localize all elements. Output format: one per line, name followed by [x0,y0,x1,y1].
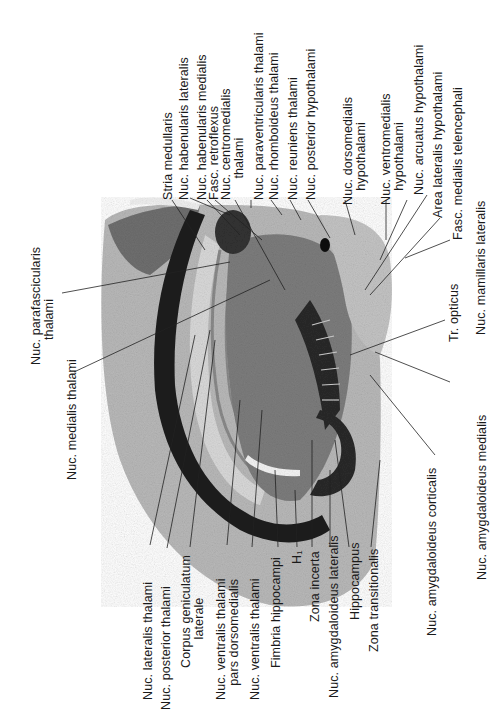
label-nuc-reuniens-thalami: Nuc. reuniens thalami [287,77,300,200]
brain-section-figure: Stria medullaris Nuc. habenularis latera… [0,0,493,726]
label-stria-medullaris: Stria medullaris [162,112,175,200]
label-h1: H₁ [291,551,304,564]
label-nuc-habenularis-lateralis: Nuc. habenularis lateralis [178,57,191,200]
label-nuc-ventralis-thalami-pars-dorsomedialis: Nuc. ventralis thalami pars dorsomediali… [215,578,241,700]
label-nuc-posterior-thalami: Nuc. posterior thalami [160,586,173,710]
label-nuc-parafascicularis-thalami: Nuc. parafascicularis thalami [30,247,56,365]
label-nuc-paraventricularis-thalami: Nuc. paraventricularis thalami [253,32,266,200]
label-zona-transitionalis: Zona transitionalis [368,549,381,652]
label-fimbria-hippocampi: Fimbria hippocampi [270,557,283,668]
label-nuc-ventromedialis-hypothalami: Nuc. ventromedialis hypothalami [380,93,406,205]
label-zona-incerta: Zona incerta [309,551,322,622]
label-nuc-amygdaloideus-lateralis: Nuc. amygdaloideus lateralis [328,535,341,698]
label-nuc-arcuatus-hypothalami: Nuc. arcuatus hypothalami [413,45,426,196]
label-nuc-mamillaris-lateralis: Nuc. mamillaris lateralis [475,201,488,335]
label-nuc-ventralis-thalami: Nuc. ventralis thalami [249,578,262,700]
label-nuc-rhomboideus-thalami: Nuc. rhomboideus thalami [268,52,281,200]
label-hippocampus: Hippocampus [349,542,362,620]
label-nuc-amygdaloideus-medialis: Nuc. amygdaloideus medialis [476,415,489,580]
label-corpus-geniculatum-laterale: Corpus geniculatum laterale [180,555,206,668]
label-nuc-lateralis-thalami: Nuc. lateralis thalami [142,582,155,700]
label-nuc-centromedialis-thalami: Nuc. centromedialis thalami [220,88,246,200]
label-nuc-dorsomedialis-hypothalami: Nuc. dorsomedialis hypothalami [342,97,368,205]
label-area-lateralis-hypothalami: Area lateralis hypothalami [432,72,445,218]
label-nuc-amygdaloideus-corticalis: Nuc. amygdaloideus corticalis [426,468,439,636]
label-nuc-posterior-hypothalami: Nuc. posterior hypothalami [305,49,318,200]
label-tr-opticus: Tr. opticus [448,284,461,342]
label-nuc-medialis-thalami: Nuc. medialis thalami [66,359,79,480]
label-fasc-medialis-telencephali: Fasc. medialis telencephali [452,87,465,240]
